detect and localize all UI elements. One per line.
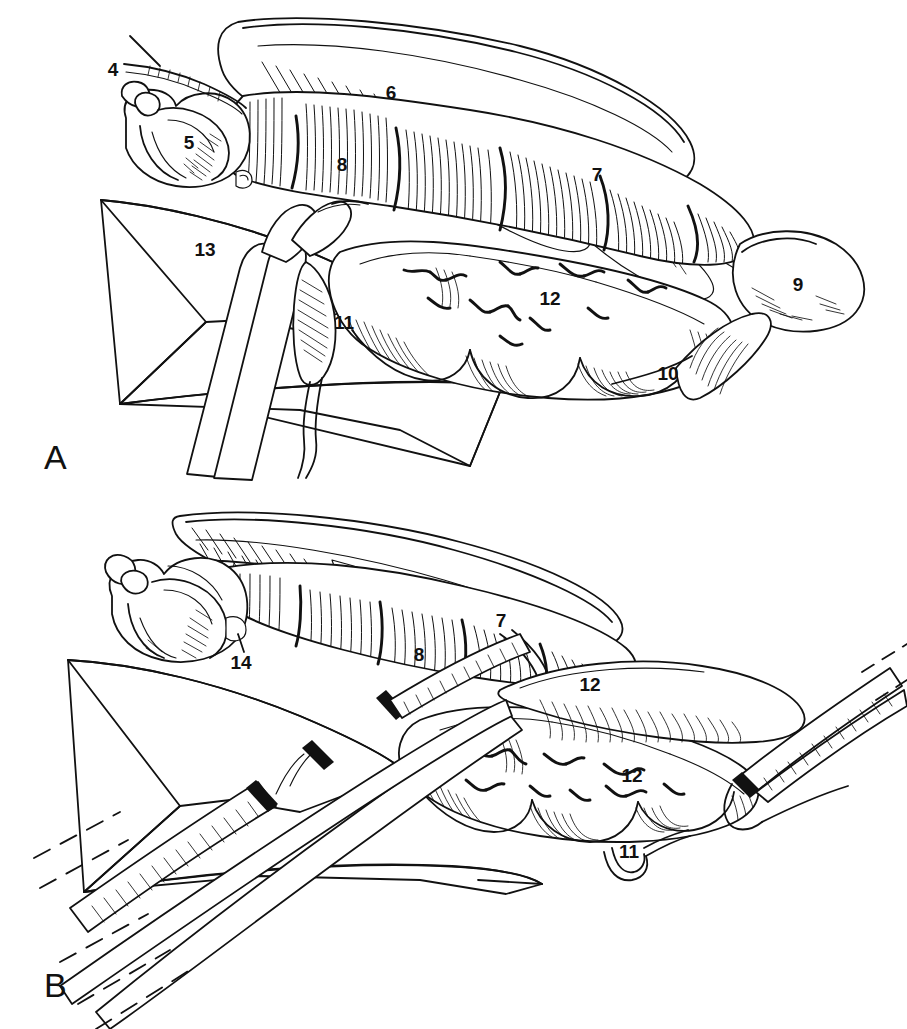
callout-b-12a: 12 xyxy=(579,675,600,694)
callout-b-8: 8 xyxy=(414,645,425,664)
retractor-blade-b xyxy=(68,660,406,892)
spleen-lobules-b xyxy=(105,555,247,662)
callout-a-13: 13 xyxy=(194,240,215,259)
callout-a-11: 11 xyxy=(334,313,354,332)
callout-a-6: 6 xyxy=(386,83,397,102)
callout-b-12b: 12 xyxy=(621,766,642,785)
callout-a-10: 10 xyxy=(657,364,678,383)
callout-a-7: 7 xyxy=(592,165,603,184)
panel-letter-a: A xyxy=(44,440,67,474)
callout-a-9: 9 xyxy=(793,275,804,294)
callout-b-14: 14 xyxy=(230,653,251,672)
figure-root: A B 4 6 5 8 7 13 9 12 11 10 7 14 8 12 12… xyxy=(0,0,907,1029)
callout-a-12: 12 xyxy=(539,289,560,308)
callout-b-11: 11 xyxy=(619,842,639,861)
panel-letter-b: B xyxy=(44,968,67,1002)
callout-a-5: 5 xyxy=(184,133,195,152)
callout-b-7: 7 xyxy=(496,611,507,630)
callout-a-8: 8 xyxy=(337,155,348,174)
panel-b-artwork xyxy=(34,512,907,1029)
callout-a-4: 4 xyxy=(108,60,119,79)
vessel-stump-a xyxy=(236,170,252,188)
figure-artwork xyxy=(0,0,907,1029)
duct-structure-a xyxy=(293,262,335,478)
retractor-blade-lower xyxy=(120,382,500,466)
